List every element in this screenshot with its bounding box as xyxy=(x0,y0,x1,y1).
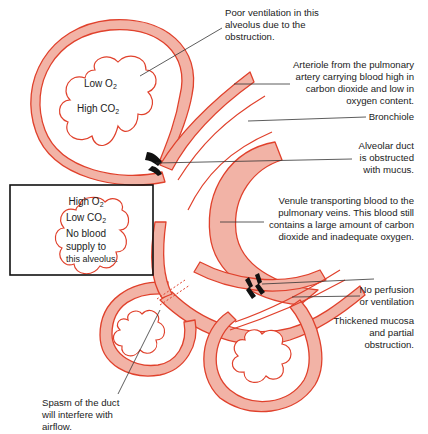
label-line: Bronchiole xyxy=(369,111,414,123)
label-line: Thickened mucosa xyxy=(333,315,414,327)
boxed-note-line2: supply to xyxy=(66,240,118,253)
label-line: airflow. xyxy=(42,421,119,433)
lower-left-alveolus xyxy=(113,311,164,356)
upper-alveolus-co2-wrap: High CO2 xyxy=(77,102,119,118)
boxed-alveolus-o2: High O2 xyxy=(66,195,106,211)
label-line: or ventilation xyxy=(360,296,414,308)
label-line: Venule transporting blood to the xyxy=(269,195,414,207)
label-line: is obstructed xyxy=(359,152,414,164)
label-line: will interfere with xyxy=(42,409,119,421)
boxed-alveolus-note: No blood supply to this alveolus. xyxy=(66,227,118,266)
label-line: oxygen content. xyxy=(293,95,414,107)
label-line: carbon dioxide and low in xyxy=(293,83,414,95)
label-line: No perfusion xyxy=(360,284,414,296)
boxed-alveolus-text: High O2 Low CO2 xyxy=(66,195,106,227)
label-thickened-mucosa: Thickened mucosa and partial obstruction… xyxy=(333,315,414,351)
label-line: with mucus. xyxy=(359,164,414,176)
label-arteriole: Arteriole from the pulmonary artery carr… xyxy=(293,59,414,107)
label-line: contains a large amount of carbon xyxy=(269,219,414,231)
upper-alveolus-o2: Low O2 xyxy=(84,77,117,93)
upper-mucus-obstruction xyxy=(145,152,162,166)
label-line: Arteriole from the pulmonary xyxy=(293,59,414,71)
label-line: Spasm of the duct xyxy=(42,397,119,409)
label-spasm: Spasm of the duct will interfere with ai… xyxy=(42,397,119,433)
upper-alveolus-text: Low O2 xyxy=(84,77,117,93)
label-poor-ventilation: Poor ventilation in this alveolus due to… xyxy=(225,7,319,43)
label-line: and partial xyxy=(333,327,414,339)
boxed-note-line1: No blood xyxy=(66,227,118,240)
label-line: obstruction. xyxy=(333,339,414,351)
label-line: Alveolar duct xyxy=(359,140,414,152)
boxed-note-line3: this alveolus. xyxy=(66,253,118,266)
label-line: dioxide and inadequate oxygen. xyxy=(269,231,414,243)
label-bronchiole: Bronchiole xyxy=(369,111,414,123)
label-alveolar-duct: Alveolar duct is obstructed with mucus. xyxy=(359,140,414,176)
label-line: artery carrying blood high in xyxy=(293,71,414,83)
label-line: pulmonary veins. This blood still xyxy=(269,207,414,219)
upper-alveolus xyxy=(60,56,157,145)
boxed-alveolus-co2: Low CO2 xyxy=(66,211,106,227)
label-line: Poor ventilation in this xyxy=(225,7,319,19)
label-venule: Venule transporting blood to the pulmona… xyxy=(269,195,414,243)
upper-alveolus-co2: High CO2 xyxy=(77,102,119,118)
label-line: alveolus due to the xyxy=(225,19,319,31)
leader-bronchiole xyxy=(248,117,366,121)
label-line: obstruction. xyxy=(225,31,319,43)
label-no-perfusion: No perfusion or ventilation xyxy=(360,284,414,308)
